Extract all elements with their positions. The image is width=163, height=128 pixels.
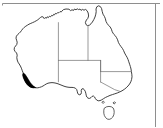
bass-strait-islet-west	[102, 101, 104, 103]
australia-map-svg	[0, 0, 163, 128]
map-figure	[0, 0, 163, 128]
bass-strait-islet-east	[113, 102, 115, 104]
tasmania-path	[104, 106, 114, 119]
tasmania	[102, 101, 115, 119]
